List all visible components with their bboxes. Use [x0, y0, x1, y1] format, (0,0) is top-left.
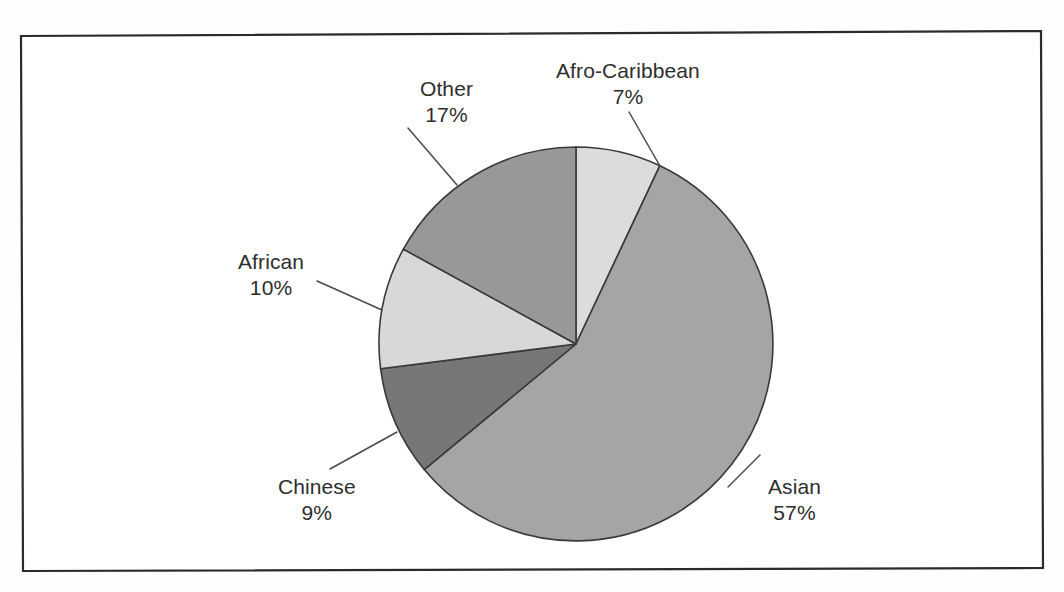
chart-canvas [0, 0, 1064, 592]
slice-label-african: African 10% [238, 249, 304, 300]
slice-label-other-name: Other [420, 76, 473, 102]
slice-label-asian-value: 57% [768, 500, 821, 526]
slice-label-afro-caribbean-name: Afro-Caribbean [556, 58, 700, 84]
slice-label-african-value: 10% [238, 275, 304, 301]
slice-label-chinese-value: 9% [278, 500, 356, 526]
slice-label-afro-caribbean-value: 7% [556, 84, 700, 110]
slice-label-chinese-name: Chinese [278, 474, 356, 500]
slice-label-afro-caribbean: Afro-Caribbean 7% [556, 58, 700, 109]
slice-label-chinese: Chinese 9% [278, 474, 356, 525]
pie-chart-figure: Afro-Caribbean 7% Other 17% African 10% … [0, 0, 1064, 592]
slice-label-african-name: African [238, 249, 304, 275]
slice-label-asian-name: Asian [768, 474, 821, 500]
slice-label-other: Other 17% [420, 76, 473, 127]
slice-label-other-value: 17% [420, 102, 473, 128]
slice-label-asian: Asian 57% [768, 474, 821, 525]
